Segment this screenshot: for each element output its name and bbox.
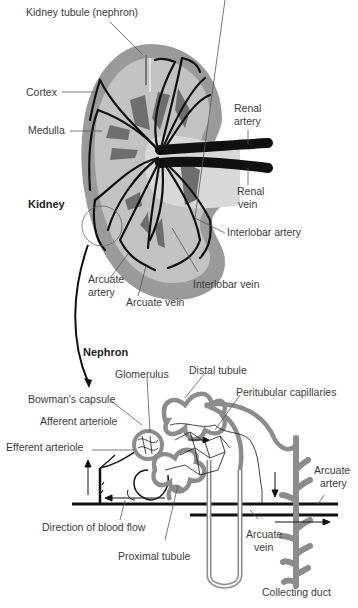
label-kidney-tubule: Kidney tubule (nephron) [26, 6, 138, 19]
label-interlobar-artery: Interlobar artery [227, 226, 301, 239]
loop-of-henle [209, 460, 240, 586]
label-medulla: Medulla [28, 124, 65, 137]
kidney-illustration [81, 44, 268, 300]
label-arcuate-vein-n2: vein [254, 541, 273, 554]
bowmans-capsule [134, 431, 162, 459]
label-peritubular-capillaries: Peritubular capillaries [236, 386, 336, 399]
kidney-title: Kidney [28, 198, 65, 211]
label-renal-artery-1: Renal [234, 102, 261, 115]
label-cortex: Cortex [26, 86, 57, 99]
label-glomerulus: Glomerulus [115, 368, 169, 381]
label-efferent-arteriole: Efferent arteriole [6, 441, 83, 454]
label-arcuate-artery-2: artery [88, 286, 115, 299]
label-arcuate-vein: Arcuate vein [126, 296, 184, 309]
label-direction-of-blood-flow: Direction of blood flow [42, 521, 145, 534]
label-bowmans-capsule: Bowman's capsule [28, 393, 115, 406]
label-renal-artery-2: artery [234, 115, 261, 128]
label-afferent-arteriole: Afferent arteriole [40, 415, 117, 428]
collecting-duct [282, 438, 310, 586]
label-arcuate-artery-1: Arcuate [88, 273, 124, 286]
label-renal-vein-2: vein [238, 198, 257, 211]
nephron-title: Nephron [83, 346, 128, 359]
zoom-arrow [75, 245, 88, 382]
label-arcuate-artery-n2: artery [320, 477, 347, 490]
renal-artery [160, 143, 268, 150]
label-arcuate-artery-n1: Arcuate [314, 464, 350, 477]
label-renal-vein-1: Renal [237, 185, 264, 198]
label-collecting-duct: Collecting duct [262, 586, 331, 599]
label-interlobar-vein: Interlobar vein [193, 278, 260, 291]
label-arcuate-vein-n1: Arcuate [246, 528, 282, 541]
label-distal-tubule: Distal tubule [189, 364, 247, 377]
label-proximal-tubule: Proximal tubule [118, 550, 190, 563]
